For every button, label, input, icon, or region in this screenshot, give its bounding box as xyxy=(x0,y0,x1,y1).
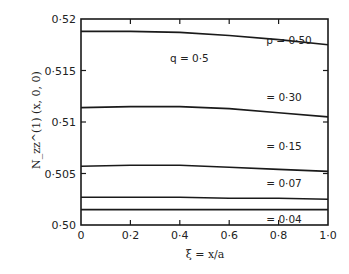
y-tick-label: 0·50 xyxy=(52,219,77,232)
series-line-1 xyxy=(81,107,328,117)
series-line-3 xyxy=(81,197,328,199)
x-tick-label: 1·0 xyxy=(319,229,337,242)
y-axis-title: N_zz^(1) (x, 0, 0) xyxy=(30,71,43,169)
line-chart: 00·20·40·60·81·00·500·5050·510·5150·52 q… xyxy=(0,0,349,274)
y-tick-label: 0·51 xyxy=(52,116,77,129)
annotation-label-3: = 0·15 xyxy=(266,140,302,152)
annotation-label-0: q = 0·5 xyxy=(170,52,209,64)
x-axis-title: ξ = x/a xyxy=(186,248,225,261)
x-tick-label: 0·6 xyxy=(220,229,238,242)
x-tick-label: 0·2 xyxy=(122,229,140,242)
svg-text:N_zz^(1) (x, 0, 0): N_zz^(1) (x, 0, 0) xyxy=(30,71,43,169)
plot-frame xyxy=(81,19,328,225)
annotation-label-5: = 0·04 xyxy=(266,213,302,225)
x-tick-label: 0 xyxy=(78,229,85,242)
x-tick-label: 0·8 xyxy=(270,229,288,242)
annotation-label-2: = 0·30 xyxy=(266,91,302,103)
y-tick-label: 0·505 xyxy=(45,168,77,181)
ticks-layer: 00·20·40·60·81·00·500·5050·510·5150·52 xyxy=(45,13,337,242)
annotations-layer: q = 0·5p = 0·50= 0·30= 0·15= 0·07= 0·04 xyxy=(170,34,312,225)
annotation-label-1: p = 0·50 xyxy=(266,34,312,46)
y-tick-label: 0·52 xyxy=(52,13,77,26)
x-tick-label: 0·4 xyxy=(171,229,189,242)
annotation-label-4: = 0·07 xyxy=(266,177,302,189)
y-tick-label: 0·515 xyxy=(45,65,77,78)
series-line-2 xyxy=(81,165,328,171)
